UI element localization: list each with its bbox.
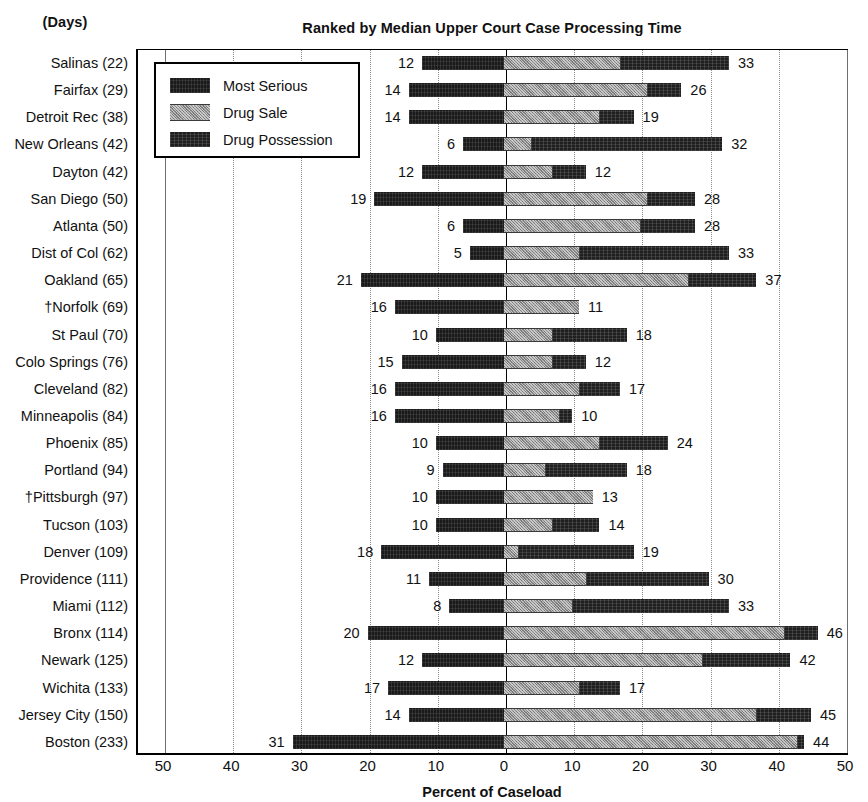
bar-segment-most-serious: [422, 56, 504, 70]
bar-track: 1014: [136, 511, 848, 539]
bar-segment-most-serious: [368, 626, 504, 640]
bar-segment-drug-possession: [647, 83, 681, 97]
value-label-right: 18: [636, 321, 676, 349]
chart-row: Cleveland (82)1617: [0, 375, 868, 403]
bar-segment-most-serious: [409, 83, 504, 97]
value-label-left: 5: [422, 239, 462, 267]
category-label: Providence (111): [0, 565, 128, 593]
chart-row: Dist of Col (62)533: [0, 239, 868, 267]
category-label: Bronx (114): [0, 619, 128, 647]
bar-segment-drug-sale: [504, 137, 531, 151]
bar-segment-drug-possession: [579, 382, 620, 396]
legend-label: Most Serious: [223, 78, 308, 94]
bar-segment-drug-sale: [504, 572, 586, 586]
bar-track: 1242: [136, 646, 848, 674]
solid-black-swatch: [170, 78, 210, 93]
x-axis-tick: 20: [615, 757, 665, 774]
category-label: Fairfax (29): [0, 76, 128, 104]
bar-segment-drug-sale: [504, 599, 572, 613]
value-label-right: 26: [690, 76, 730, 104]
bar-segment-most-serious: [361, 273, 504, 287]
legend-label: Drug Possession: [223, 132, 333, 148]
chart-title: Ranked by Median Upper Court Case Proces…: [136, 20, 848, 36]
chart-row: Miami (112)833: [0, 592, 868, 620]
textured-black-swatch: [170, 132, 210, 147]
value-label-left: 6: [415, 212, 455, 240]
category-label: Tucson (103): [0, 511, 128, 539]
bar-segment-drug-sale: [504, 328, 552, 342]
bar-segment-drug-sale: [504, 300, 579, 314]
value-label-left: 18: [333, 538, 373, 566]
value-label-right: 13: [602, 483, 642, 511]
bar-segment-drug-possession: [702, 653, 791, 667]
legend-item[interactable]: Most Serious: [170, 72, 358, 99]
days-column-header: (Days): [0, 14, 130, 30]
bar-track: 1024: [136, 429, 848, 457]
bar-segment-drug-sale: [504, 681, 579, 695]
bar-segment-drug-sale: [504, 436, 599, 450]
category-label: St Paul (70): [0, 321, 128, 349]
bar-segment-drug-sale: [504, 463, 545, 477]
bar-segment-drug-sale: [504, 653, 702, 667]
category-label: Boston (233): [0, 728, 128, 756]
bar-segment-most-serious: [388, 681, 504, 695]
bar-segment-most-serious: [395, 300, 504, 314]
bar-segment-most-serious: [449, 599, 504, 613]
bar-track: 533: [136, 239, 848, 267]
category-label: †Norfolk (69): [0, 293, 128, 321]
x-axis-tick: 30: [274, 757, 324, 774]
value-label-left: 14: [361, 701, 401, 729]
x-axis-tick: 50: [138, 757, 188, 774]
bar-segment-drug-possession: [640, 219, 695, 233]
category-label: Minneapolis (84): [0, 402, 128, 430]
bar-segment-most-serious: [409, 110, 504, 124]
bar-segment-most-serious: [443, 463, 504, 477]
value-label-left: 11: [381, 565, 421, 593]
bar-track: 833: [136, 592, 848, 620]
value-label-right: 33: [738, 592, 778, 620]
bar-segment-drug-possession: [579, 246, 729, 260]
bar-segment-most-serious: [422, 165, 504, 179]
bar-segment-drug-sale: [504, 490, 593, 504]
value-label-right: 46: [827, 619, 867, 647]
bar-segment-drug-possession: [797, 735, 804, 749]
value-label-left: 10: [388, 321, 428, 349]
chart-row: Boston (233)3144: [0, 728, 868, 756]
bar-segment-most-serious: [422, 653, 504, 667]
chart-container: (Days) Ranked by Median Upper Court Case…: [0, 0, 868, 802]
category-label: Miami (112): [0, 592, 128, 620]
bar-segment-most-serious: [436, 436, 504, 450]
category-label: San Diego (50): [0, 185, 128, 213]
value-label-right: 45: [820, 701, 860, 729]
category-label: Denver (109): [0, 538, 128, 566]
value-label-left: 8: [401, 592, 441, 620]
category-label: Portland (94): [0, 456, 128, 484]
bar-segment-drug-sale: [504, 708, 756, 722]
chart-row: Colo Springs (76)1512: [0, 348, 868, 376]
x-axis-tick: 50: [820, 757, 868, 774]
category-label: Wichita (133): [0, 674, 128, 702]
value-label-right: 28: [704, 212, 744, 240]
value-label-left: 10: [388, 511, 428, 539]
category-label: Detroit Rec (38): [0, 103, 128, 131]
x-axis-title: Percent of Caseload: [136, 784, 848, 800]
x-axis-tick: 20: [343, 757, 393, 774]
chart-row: Denver (109)1819: [0, 538, 868, 566]
category-label: Atlanta (50): [0, 212, 128, 240]
bar-segment-drug-possession: [599, 436, 667, 450]
x-axis-tick: 10: [547, 757, 597, 774]
value-label-right: 33: [738, 49, 778, 77]
bar-track: 2137: [136, 266, 848, 294]
legend-item[interactable]: Drug Possession: [170, 126, 358, 153]
value-label-left: 12: [374, 646, 414, 674]
bar-segment-drug-sale: [504, 110, 599, 124]
bar-track: 3144: [136, 728, 848, 756]
chart-row: Salinas (22)1233: [0, 49, 868, 77]
chart-row: Bronx (114)2046: [0, 619, 868, 647]
legend-item[interactable]: Drug Sale: [170, 99, 358, 126]
value-label-right: 12: [595, 158, 635, 186]
value-label-left: 12: [374, 158, 414, 186]
category-label: Salinas (22): [0, 49, 128, 77]
value-label-left: 12: [374, 49, 414, 77]
category-label: Oakland (65): [0, 266, 128, 294]
